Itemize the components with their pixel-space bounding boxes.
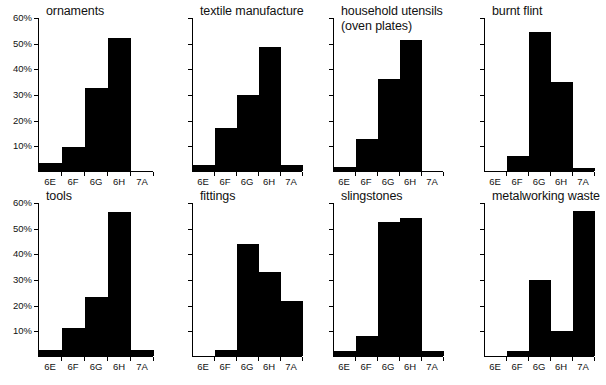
y-axis-tick [480, 306, 484, 307]
bar [551, 331, 573, 357]
figure-canvas: ornaments10%20%30%40%50%60%6E6F6G6H7Atex… [0, 0, 606, 385]
x-axis-tick-label: 6H [555, 362, 567, 372]
plot-area: 6E6F6G6H7A [484, 203, 594, 357]
x-axis-tick [594, 357, 595, 361]
chart-panel: metalworking waste6E6F6G6H7A [0, 0, 606, 385]
bar [529, 280, 551, 357]
x-axis-tick-label: 6G [533, 362, 546, 372]
y-axis-tick [480, 229, 484, 230]
y-axis-tick [480, 203, 484, 204]
y-axis-tick [480, 254, 484, 255]
bar-series [485, 203, 594, 356]
x-axis-tick [506, 357, 507, 361]
chart-title: metalworking waste [492, 189, 600, 203]
y-axis-tick [480, 331, 484, 332]
x-axis-tick-label: 7A [577, 362, 589, 372]
x-axis-tick [572, 357, 573, 361]
x-axis-tick-label: 6E [489, 362, 501, 372]
y-axis-tick [480, 280, 484, 281]
bar [507, 351, 529, 356]
bar [573, 211, 595, 356]
x-axis-tick-label: 6F [511, 362, 522, 372]
x-axis-line [484, 356, 594, 357]
x-axis-tick [528, 357, 529, 361]
x-axis-tick [550, 357, 551, 361]
